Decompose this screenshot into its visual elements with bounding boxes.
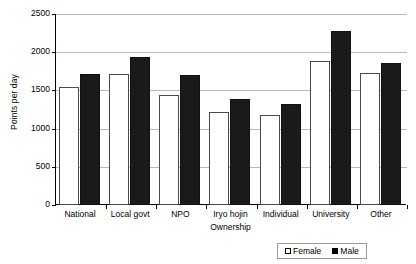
y-axis-tick-label: 2000	[4, 47, 50, 56]
bar-male	[331, 31, 351, 205]
bar-female	[310, 61, 330, 205]
bar-group	[106, 14, 156, 205]
y-axis-tick-mark	[52, 205, 56, 206]
bar-male	[180, 75, 200, 205]
open-square-icon	[285, 248, 291, 254]
bar-female	[360, 73, 380, 205]
bar-group	[357, 14, 407, 205]
bar-female	[209, 112, 229, 205]
plot-area	[55, 14, 406, 205]
y-axis-tick-label: 2500	[4, 9, 50, 18]
bar-female	[109, 74, 129, 205]
bar-female	[260, 115, 280, 205]
y-axis-tick-label: 1500	[4, 85, 50, 94]
y-axis-title: Points per day	[9, 47, 19, 157]
bar-group	[307, 14, 357, 205]
y-axis-tick-label: 500	[4, 162, 50, 171]
bars-layer	[56, 14, 407, 205]
bar-female	[59, 87, 79, 205]
bar-group	[257, 14, 307, 205]
legend-label: Female	[293, 246, 321, 256]
bar-male	[381, 63, 401, 205]
x-axis-title: Ownership	[55, 222, 406, 232]
bar-male	[80, 74, 100, 205]
filled-square-icon	[332, 248, 338, 254]
y-axis-tick-label: 0	[4, 200, 50, 209]
bar-group	[206, 14, 256, 205]
bar-male	[230, 99, 250, 205]
legend-entry: Female	[285, 246, 321, 256]
bar-male	[130, 57, 150, 205]
bar-group	[56, 14, 106, 205]
y-axis-tick-label: 1000	[4, 124, 50, 133]
legend-entry: Male	[332, 246, 358, 256]
bar-group	[156, 14, 206, 205]
legend-label: Male	[340, 246, 358, 256]
bar-chart: Points per day 05001000150020002500 Nati…	[0, 0, 416, 264]
bar-female	[159, 95, 179, 205]
bar-male	[281, 104, 301, 205]
chart-legend: FemaleMale	[277, 243, 367, 259]
x-axis-tick-label: Other	[343, 209, 416, 219]
